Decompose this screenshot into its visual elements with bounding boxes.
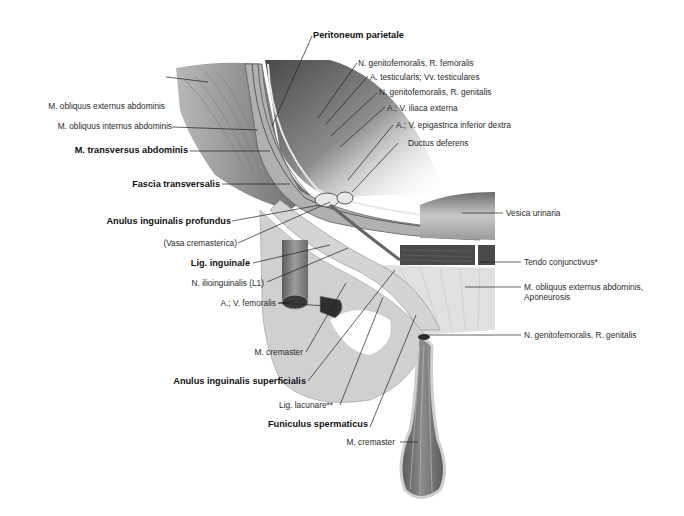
urinary-bladder [420, 192, 495, 240]
label-m-cremaster-left: M. cremaster [255, 347, 303, 357]
label-tendo-conjunctivus: Tendo conjunctivus* [524, 257, 598, 267]
label-m-obliquus-internus: M. obliquus internus abdominis [58, 121, 172, 131]
label-n-ilioinguinalis: N. ilioinguinalis (L1) [192, 278, 264, 288]
label-lig-inguinale: Lig. inguinale [191, 258, 250, 268]
label-m-transversus: M. transversus abdominis [75, 145, 188, 155]
label-lig-lacunare: Lig. lacunare** [279, 400, 333, 410]
label-m-obliquus-externus: M. obliquus externus abdominis [48, 101, 165, 111]
femoral-artery-vein-tube [282, 240, 308, 302]
label-ductus-deferens: Ductus deferens [408, 138, 468, 148]
anatomy-figure: Peritoneum parietale N. genitofemoralis,… [0, 0, 684, 516]
label-vasa-cremasterica: (Vasa cremasterica) [163, 238, 237, 248]
label-funiculus-spermaticus: Funiculus spermaticus [268, 419, 368, 429]
label-m-obliquus-externus-aponeurosis-line1: M. obliquus externus abdominis, [524, 282, 643, 292]
label-a-v-femoralis: A.; V. femoralis [221, 298, 277, 308]
label-m-cremaster-bottom: M. cremaster [347, 437, 395, 447]
label-n-genitofemoralis-r-femoralis: N. genitofemoralis, R. femoralis [358, 58, 474, 68]
label-fascia-transversalis: Fascia transversalis [132, 179, 220, 189]
label-vesica-urinaria: Vesica urinaria [506, 208, 560, 218]
label-peritoneum-parietale: Peritoneum parietale [313, 30, 404, 40]
label-anulus-superficialis: Anulus inguinalis superficialis [173, 376, 306, 386]
label-a-v-epigastrica: A.; V. epigastrica inferior dextra [396, 120, 511, 130]
label-a-testicularis: A. testicularis; Vv. testiculares [370, 72, 480, 82]
label-m-obliquus-externus-aponeurosis-line2: Aponeurosis [524, 292, 570, 302]
label-n-genitofemoralis-r-genitalis-bottom: N. genitofemoralis, R. genitalis [524, 330, 637, 340]
label-anulus-profundus: Anulus inguinalis profundus [106, 216, 231, 226]
label-a-v-iliaca-externa: A.; V. iliaca externa [387, 103, 458, 113]
label-n-genitofemoralis-r-genitalis-top: N. genitofemoralis, R. genitalis [379, 87, 492, 97]
